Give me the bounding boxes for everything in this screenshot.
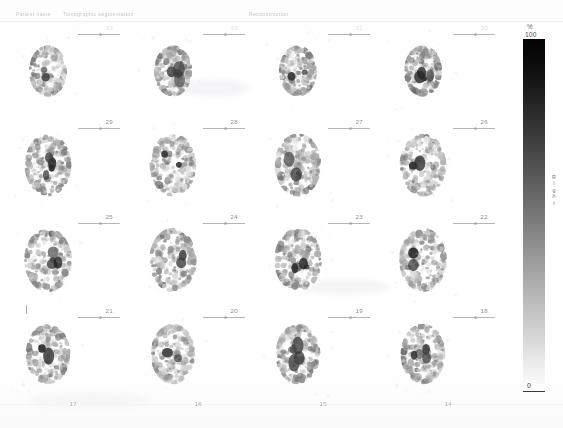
slice-reference-marker [474, 316, 477, 319]
slice-reference-marker [349, 127, 352, 130]
slice-cell[interactable]: 22 [375, 211, 500, 306]
brain-slice-image[interactable] [387, 311, 459, 397]
slice-reference-marker [99, 33, 102, 36]
slice-number-label: 30 [481, 24, 488, 31]
slice-cell[interactable]: 27 [250, 116, 375, 211]
brain-slice-image[interactable] [137, 122, 209, 208]
brain-slice-image[interactable] [387, 217, 459, 303]
brain-slice-canvas [387, 28, 459, 114]
slice-cell[interactable]: 21 [0, 305, 125, 400]
brain-slice-image[interactable] [262, 311, 334, 397]
slice-cell[interactable]: 26 [375, 116, 500, 211]
slice-number-label: 26 [481, 118, 488, 125]
brain-slice-canvas [137, 311, 209, 397]
header-study-type: Tomographic segmentation [63, 11, 134, 17]
slice-cell[interactable]: 20 [125, 305, 250, 400]
brain-slice-image[interactable] [12, 217, 84, 303]
brain-slice-canvas [387, 311, 459, 397]
slice-reference-marker [474, 222, 477, 225]
slice-number-label: 22 [481, 213, 488, 220]
brain-slice-canvas [137, 28, 209, 114]
slice-number-label: 33 [106, 24, 113, 31]
slice-number-label: 20 [231, 307, 238, 314]
slice-number-label: 23 [356, 213, 363, 220]
brain-slice-image[interactable] [387, 122, 459, 208]
slice-reference-marker [99, 316, 102, 319]
slice-reference-marker [224, 316, 227, 319]
orientation-label-right: Right [549, 174, 559, 206]
brain-slice-image[interactable] [12, 311, 84, 397]
brain-slice-canvas [12, 311, 84, 397]
colorbar-max-value: 100 [525, 31, 537, 38]
slice-reference-marker [224, 222, 227, 225]
slice-cell[interactable]: 31 [250, 22, 375, 117]
slice-cell[interactable]: 28 [125, 116, 250, 211]
brain-slice-canvas [12, 28, 84, 114]
slice-cell[interactable]: 15 [250, 394, 375, 428]
orientation-letter: t [549, 200, 559, 206]
colorbar-baseline [523, 391, 545, 392]
slice-number-label: 31 [356, 24, 363, 31]
brain-slice-image[interactable] [12, 28, 84, 114]
brain-slice-canvas [387, 217, 459, 303]
header-reconstruction: Reconstruction [249, 11, 289, 17]
slice-reference-marker [349, 316, 352, 319]
slice-cell[interactable]: 30 [375, 22, 500, 117]
slice-cell[interactable]: 24 [125, 211, 250, 306]
brain-slice-image[interactable] [387, 28, 459, 114]
slice-reference-marker [99, 222, 102, 225]
scan-page: Patient name Tomographic segmentation Re… [0, 0, 563, 428]
slice-number-label: 17 [70, 400, 77, 407]
slice-number-label: 16 [195, 400, 202, 407]
brain-slice-canvas [262, 217, 334, 303]
brain-slice-image[interactable] [262, 122, 334, 208]
slice-number-label: 25 [106, 213, 113, 220]
slice-reference-marker [99, 127, 102, 130]
brain-slice-image[interactable] [262, 217, 334, 303]
slice-reference-marker [474, 33, 477, 36]
slice-number-label: 21 [106, 307, 113, 314]
slice-reference-marker [349, 222, 352, 225]
colorbar-gradient[interactable] [523, 39, 545, 384]
report-header: Patient name Tomographic segmentation Re… [0, 0, 563, 22]
slice-grid: 3332313029282726252423222120191817161514 [0, 22, 503, 404]
slice-reference-marker [349, 33, 352, 36]
slice-cell[interactable]: 16 [125, 394, 250, 428]
slice-cursor-marker [26, 305, 27, 314]
colorbar-unit-label: % [527, 23, 533, 30]
brain-slice-canvas [137, 122, 209, 208]
slice-cell[interactable]: 25 [0, 211, 125, 306]
slice-number-label: 14 [445, 400, 452, 407]
slice-cell[interactable]: 32 [125, 22, 250, 117]
brain-slice-image[interactable] [137, 311, 209, 397]
brain-slice-canvas [387, 122, 459, 208]
slice-cell[interactable]: 33 [0, 22, 125, 117]
slice-cell[interactable]: 29 [0, 116, 125, 211]
brain-slice-image[interactable] [137, 217, 209, 303]
brain-slice-canvas [12, 122, 84, 208]
slice-cell[interactable]: 19 [250, 305, 375, 400]
brain-slice-canvas [262, 28, 334, 114]
brain-slice-canvas [137, 217, 209, 303]
header-patient-name: Patient name [16, 11, 51, 17]
slice-cell[interactable]: 17 [0, 394, 125, 428]
brain-slice-canvas [12, 217, 84, 303]
brain-slice-image[interactable] [262, 28, 334, 114]
brain-slice-image[interactable] [12, 122, 84, 208]
slice-number-label: 28 [231, 118, 238, 125]
slice-number-label: 15 [320, 400, 327, 407]
slice-reference-marker [224, 33, 227, 36]
intensity-colorbar-panel: % 100 0 Right [503, 22, 563, 404]
slice-number-label: 19 [356, 307, 363, 314]
slice-cell[interactable]: 14 [375, 394, 500, 428]
slice-reference-marker [224, 127, 227, 130]
brain-slice-canvas [262, 311, 334, 397]
brain-slice-image[interactable] [137, 28, 209, 114]
slice-cell[interactable]: 23 [250, 211, 375, 306]
slice-number-label: 18 [481, 307, 488, 314]
slice-number-label: 24 [231, 213, 238, 220]
brain-slice-canvas [262, 122, 334, 208]
slice-cell[interactable]: 18 [375, 305, 500, 400]
slice-number-label: 32 [231, 24, 238, 31]
slice-number-label: 27 [356, 118, 363, 125]
